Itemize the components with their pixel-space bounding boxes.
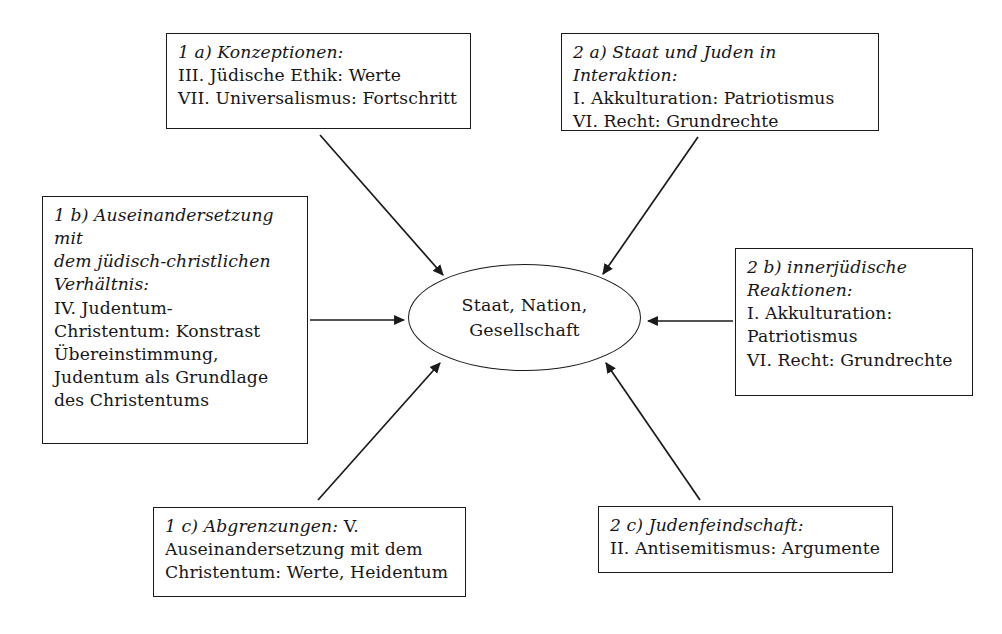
node-box-2b-line-2: Patriotismus (747, 325, 963, 348)
node-box-1b-line-5: des Christentums (54, 389, 298, 412)
node-box-1a-header: 1 a) Konzeptionen: (178, 41, 461, 64)
node-box-1a-line-2: VII. Universalismus: Fortschritt (178, 87, 461, 110)
edge-1a-to-center (320, 135, 443, 275)
node-box-2a-line-1: I. Akkulturation: Patriotismus (573, 87, 869, 110)
edge-1c-to-center (318, 363, 440, 500)
node-box-2a-line-2: VI. Recht: Grundrechte (573, 110, 869, 133)
node-box-2b-header-line-2: Reaktionen: (747, 279, 963, 302)
node-box-1b-line-3: Übereinstimmung, (54, 343, 298, 366)
node-box-2b-line-1: I. Akkulturation: (747, 302, 963, 325)
center-node-line-2: Gesellschaft (469, 318, 580, 343)
node-box-1a: 1 a) Konzeptionen: III. Jüdische Ethik: … (166, 33, 471, 129)
node-box-1c-line-1: Auseinandersetzung mit dem (165, 538, 456, 561)
center-node-staat-nation-gesellschaft: Staat, Nation, Gesellschaft (408, 264, 641, 371)
node-box-1b-line-1: IV. Judentum- (54, 297, 298, 320)
node-box-1c-header: 1 c) Abgrenzungen: (165, 516, 338, 536)
node-box-2c-header: 2 c) Judenfeindschaft: (610, 514, 883, 537)
node-box-2c: 2 c) Judenfeindschaft: II. Antisemitismu… (598, 506, 893, 573)
node-box-1b-header-line-3: Verhältnis: (54, 273, 298, 296)
diagram-canvas: Staat, Nation, Gesellschaft 1 a) Konzept… (0, 0, 1002, 634)
node-box-1b-line-4: Judentum als Grundlage (54, 366, 298, 389)
node-box-2b: 2 b) innerjüdische Reaktionen: I. Akkult… (735, 248, 973, 396)
node-box-2b-header-line-1: 2 b) innerjüdische (747, 256, 963, 279)
node-box-1b-header-line-1: 1 b) Auseinandersetzung mit (54, 204, 298, 250)
node-box-1b-header-line-2: dem jüdisch-christlichen (54, 250, 298, 273)
edge-2a-to-center (603, 137, 698, 274)
node-box-1b: 1 b) Auseinandersetzung mit dem jüdisch-… (42, 196, 308, 444)
center-node-line-1: Staat, Nation, (462, 293, 588, 318)
node-box-1c: 1 c) Abgrenzungen: V. Auseinandersetzung… (153, 507, 466, 597)
node-box-1c-line-2: Christentum: Werte, Heidentum (165, 561, 456, 584)
node-box-1b-line-2: Christentum: Konstrast (54, 320, 298, 343)
node-box-1a-line-1: III. Jüdische Ethik: Werte (178, 64, 461, 87)
node-box-2a-header: 2 a) Staat und Juden in Interaktion: (573, 41, 869, 87)
node-box-2c-line-1: II. Antisemitismus: Argumente (610, 537, 883, 560)
node-box-1c-header-row: 1 c) Abgrenzungen: V. (165, 515, 456, 538)
edge-2c-to-center (606, 363, 700, 500)
node-box-1c-header-tail: V. (338, 516, 359, 536)
node-box-2a: 2 a) Staat und Juden in Interaktion: I. … (561, 33, 879, 131)
node-box-2b-line-3: VI. Recht: Grundrechte (747, 349, 963, 372)
